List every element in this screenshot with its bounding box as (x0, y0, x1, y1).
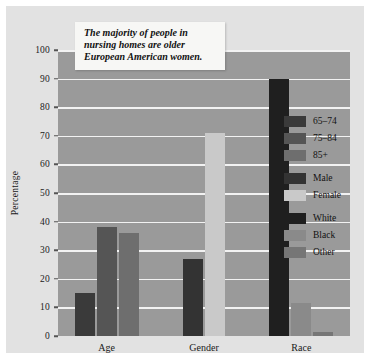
legend-item: 75–84 (284, 131, 364, 145)
x-axis: AgeGenderRace (58, 336, 350, 359)
legend-item: Other (284, 245, 364, 259)
y-axis-tick-label: 20 (40, 274, 50, 284)
gridline (58, 79, 350, 81)
chart-legend: 65–7475–8485+MaleFemaleWhiteBlackOther (284, 114, 364, 262)
legend-label: 75–84 (313, 133, 337, 143)
gridline (58, 107, 350, 109)
y-axis-tick-label: 30 (40, 245, 50, 255)
legend-item: Male (284, 171, 364, 185)
y-axis-tick-label: 40 (40, 217, 50, 227)
legend-item: Black (284, 228, 364, 242)
bar-race-1 (291, 303, 311, 336)
legend-label: Other (313, 247, 335, 257)
legend-swatch (284, 133, 306, 144)
bar-age-1 (97, 227, 117, 336)
y-axis-tick-label: 100 (35, 45, 50, 55)
legend-swatch (284, 150, 306, 161)
legend-label: Black (313, 230, 335, 240)
legend-item: 85+ (284, 148, 364, 162)
bar-gender-0 (183, 259, 203, 336)
y-axis-tick-label: 60 (40, 159, 50, 169)
legend-item: White (284, 211, 364, 225)
x-axis-tick-label: Race (291, 342, 311, 353)
callout-annotation: The majority of people in nursing homes … (75, 22, 225, 70)
legend-label: Male (313, 173, 333, 183)
y-axis-tick-label: 0 (45, 331, 50, 341)
legend-swatch (284, 116, 306, 127)
legend-swatch (284, 213, 306, 224)
bar-gender-1 (205, 133, 225, 336)
x-axis-tick-label: Age (98, 342, 115, 353)
legend-swatch (284, 230, 306, 241)
legend-label: 65–74 (313, 116, 337, 126)
legend-label: Female (313, 190, 341, 200)
bar-age-2 (119, 233, 139, 336)
legend-label: White (313, 213, 336, 223)
legend-item: Female (284, 188, 364, 202)
figure-panel: Percentage 0102030405060708090100 AgeGen… (6, 6, 364, 353)
y-axis-tick-label: 80 (40, 102, 50, 112)
y-axis-tick-label: 10 (40, 302, 50, 312)
legend-swatch (284, 173, 306, 184)
legend-item: 65–74 (284, 114, 364, 128)
y-axis: 0102030405060708090100 (6, 50, 58, 336)
y-axis-tick-label: 50 (40, 188, 50, 198)
bar-age-0 (75, 293, 95, 336)
y-axis-tick-label: 70 (40, 131, 50, 141)
legend-swatch (284, 190, 306, 201)
x-axis-tick-label: Gender (189, 342, 218, 353)
y-axis-tick-label: 90 (40, 74, 50, 84)
legend-swatch (284, 247, 306, 258)
legend-label: 85+ (313, 150, 328, 160)
